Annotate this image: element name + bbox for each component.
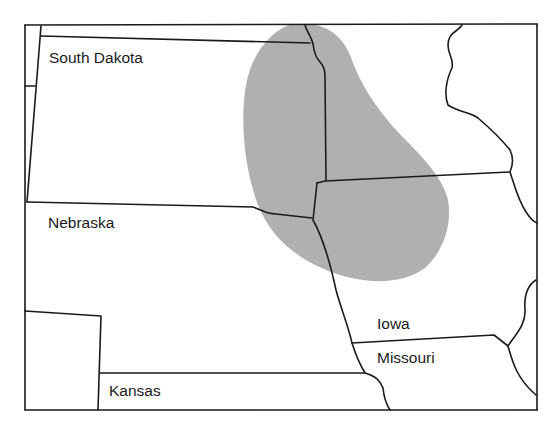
- border-co-ne: [25, 311, 101, 410]
- frame-top: [25, 24, 537, 25]
- state-label-south-dakota: South Dakota: [49, 50, 143, 66]
- state-label-nebraska: Nebraska: [48, 215, 114, 231]
- border-mississippi-lower: [508, 280, 536, 395]
- border-mn-wi: [446, 25, 513, 172]
- shaded-distribution-region: [243, 24, 449, 281]
- state-label-iowa: Iowa: [377, 316, 410, 332]
- state-label-missouri: Missouri: [377, 350, 435, 366]
- border-ia-mo: [352, 335, 508, 346]
- border-ia-il-upper: [510, 172, 537, 223]
- border-sd-west: [27, 26, 41, 202]
- map: South Dakota Nebraska Iowa Missouri Kans…: [0, 0, 557, 429]
- state-label-kansas: Kansas: [109, 383, 161, 399]
